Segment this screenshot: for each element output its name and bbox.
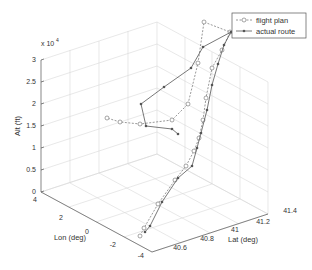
- asterisk-marker-icon: [161, 201, 164, 204]
- circle-marker-icon: [142, 226, 146, 230]
- svg-text:-4: -4: [138, 252, 144, 259]
- z-tick-labels: 3 2.5 2 1.5 1 0.5 0: [26, 56, 36, 195]
- z-exponent: x 10 4: [41, 37, 59, 47]
- svg-text:40.8: 40.8: [200, 235, 214, 242]
- circle-marker-icon: [204, 96, 208, 100]
- asterisk-marker-icon: [200, 132, 203, 135]
- svg-text:1: 1: [32, 144, 36, 151]
- y-tick-labels: 4 2 0 -2 -4: [33, 196, 144, 259]
- asterisk-marker-icon: [202, 46, 205, 49]
- circle-marker-icon: [138, 122, 142, 126]
- asterisk-marker-icon: [149, 225, 152, 228]
- svg-text:2.5: 2.5: [26, 78, 36, 85]
- svg-text:-2: -2: [110, 241, 116, 248]
- asterisk-marker-icon: [211, 84, 214, 87]
- grid-back-left-wall: [41, 22, 157, 192]
- svg-text:flight plan: flight plan: [256, 16, 288, 25]
- svg-text:actual route: actual route: [256, 27, 295, 36]
- chart-figure: 3 2.5 2 1.5 1 0.5 0 x 10 4 Alt (ft) 4 2 …: [0, 0, 312, 270]
- asterisk-marker-icon: [145, 125, 148, 128]
- series-flight-plan: [105, 20, 232, 238]
- svg-text:0.5: 0.5: [26, 166, 36, 173]
- circle-marker-icon: [184, 164, 188, 168]
- svg-text:4: 4: [33, 196, 37, 203]
- circle-marker-icon: [156, 202, 160, 206]
- circle-marker-icon: [202, 20, 206, 24]
- svg-text:4: 4: [56, 37, 59, 43]
- asterisk-marker-icon: [140, 103, 143, 106]
- svg-text:3: 3: [32, 56, 36, 63]
- circle-marker-icon: [138, 234, 142, 238]
- asterisk-marker-icon: [171, 128, 174, 131]
- y-axis-label: Lon (deg): [54, 233, 87, 242]
- y-axis-line: [41, 192, 152, 252]
- circle-marker-icon: [210, 66, 214, 70]
- svg-text:41.2: 41.2: [256, 218, 270, 225]
- asterisk-marker-icon: [206, 109, 209, 112]
- circle-marker-icon: [118, 120, 122, 124]
- x-axis-label: Lat (deg): [228, 235, 259, 244]
- svg-text:2: 2: [59, 214, 63, 221]
- x-tick-labels: 40.6 40.8 41 41.2 41.4: [173, 207, 297, 251]
- z-axis-label: Alt (ft): [13, 115, 22, 136]
- asterisk-marker-icon: [144, 231, 147, 234]
- circle-marker-icon: [105, 116, 109, 120]
- asterisk-marker-icon: [163, 86, 166, 89]
- x-axis-line: [152, 214, 268, 252]
- circle-marker-icon: [196, 61, 200, 65]
- circle-marker-icon: [242, 18, 246, 22]
- asterisk-marker-icon: [191, 165, 194, 168]
- svg-text:41: 41: [231, 226, 239, 233]
- asterisk-marker-icon: [177, 177, 180, 180]
- svg-text:x 10: x 10: [41, 40, 54, 47]
- asterisk-marker-icon: [190, 67, 193, 70]
- svg-text:0: 0: [32, 188, 36, 195]
- asterisk-marker-icon: [196, 147, 199, 150]
- svg-text:1.5: 1.5: [26, 122, 36, 129]
- asterisk-marker-icon: [177, 133, 180, 136]
- svg-text:40.6: 40.6: [173, 244, 187, 251]
- asterisk-marker-icon: [223, 44, 226, 47]
- asterisk-marker-icon: [243, 30, 246, 33]
- svg-text:2: 2: [32, 100, 36, 107]
- svg-text:41.4: 41.4: [283, 207, 297, 214]
- axes: [41, 59, 268, 252]
- legend: flight plan actual route: [232, 13, 306, 38]
- asterisk-marker-icon: [217, 63, 220, 66]
- circle-marker-icon: [186, 102, 190, 106]
- circle-marker-icon: [170, 118, 174, 122]
